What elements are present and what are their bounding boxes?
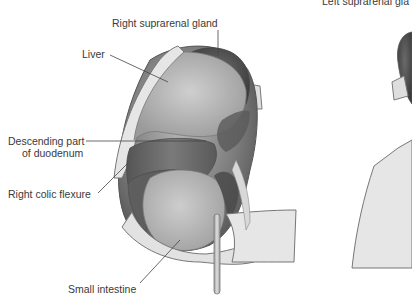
mesocolon-band <box>226 210 296 262</box>
ureter <box>214 214 220 294</box>
label-small-intestine: Small intestine <box>68 283 136 295</box>
label-liver: Liver <box>82 48 105 60</box>
small-intestine <box>143 170 225 251</box>
diagram-canvas: Right suprarenal gland Left suprarenal g… <box>0 0 412 300</box>
label-right-colic-flexure: Right colic flexure <box>8 188 91 200</box>
label-descending-duodenum-1: Descending part <box>8 135 84 147</box>
label-left-suprarenal-gland: Left suprarenal gla <box>322 0 409 7</box>
label-right-suprarenal-gland: Right suprarenal gland <box>112 17 218 29</box>
left-kidney-group <box>352 32 412 268</box>
right-kidney-group <box>114 46 296 294</box>
left-peritoneal-sheet <box>352 140 412 268</box>
label-descending-duodenum-2: of duodenum <box>22 147 83 159</box>
